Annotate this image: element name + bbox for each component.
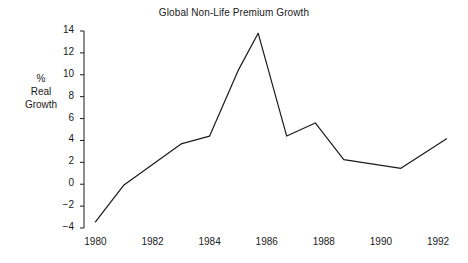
- y-axis-tick-label: 2: [48, 155, 74, 166]
- data-series-line: [95, 33, 446, 222]
- y-axis-tick-label: 4: [48, 133, 74, 144]
- y-axis-tick-label: 12: [48, 46, 74, 57]
- x-axis-tick-label: 1990: [361, 236, 401, 247]
- y-axis-tick-label: −2: [48, 199, 74, 210]
- y-axis-tick-label: 0: [48, 177, 74, 188]
- chart-figure: Global Non-Life Premium Growth % Real Gr…: [0, 0, 468, 263]
- y-axis-tick-label: 6: [48, 112, 74, 123]
- x-axis-tick-label: 1982: [133, 236, 173, 247]
- x-axis-tick-label: 1984: [190, 236, 230, 247]
- x-axis-tick-label: 1988: [304, 236, 344, 247]
- y-axis-tick-label: 14: [48, 24, 74, 35]
- x-axis-tick-label: 1986: [247, 236, 287, 247]
- y-axis-tick-label: −4: [48, 221, 74, 232]
- y-axis-tick-label: 8: [48, 90, 74, 101]
- x-axis-tick-label: 1992: [418, 236, 458, 247]
- x-axis-tick-label: 1980: [75, 236, 115, 247]
- y-axis-ticks: [80, 31, 84, 228]
- y-axis-tick-label: 10: [48, 68, 74, 79]
